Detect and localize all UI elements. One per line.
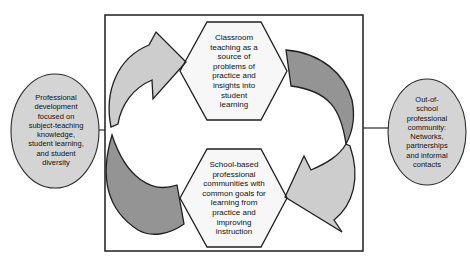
left-upward-arrow	[109, 32, 186, 127]
top-hexagon-label: Classroom teaching as a source of proble…	[191, 33, 277, 110]
left-ellipse-label: Professional development focused on subj…	[12, 93, 100, 167]
bottom-hexagon-label: School-based professional communities wi…	[186, 160, 282, 237]
right-downward-arrow	[285, 144, 355, 232]
professional-development-cycle-diagram: Professional development focused on subj…	[0, 0, 470, 267]
right-ellipse-label: Out-of- school professional community: N…	[389, 95, 465, 169]
left-arrow-tail-band	[106, 135, 184, 234]
right-arrow-tail-band	[286, 50, 354, 144]
